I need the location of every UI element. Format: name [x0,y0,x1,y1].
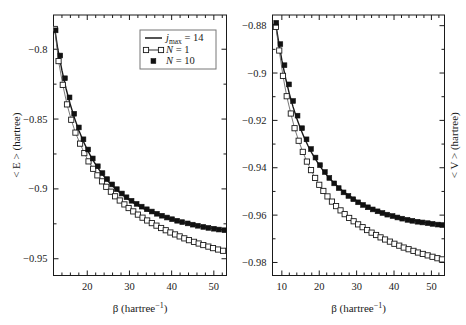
marker-open-square [308,168,313,173]
marker-open-square [284,94,289,99]
series-line-0 [275,22,442,225]
marker-open-square [296,138,301,143]
legend-n10-value: = 10 [173,55,195,66]
marker-filled-square [274,20,279,25]
y-tick-label: −0.98 [242,257,266,268]
marker-filled-square [129,198,134,203]
panel-right: 1020304050−0.88−0.9−0.92−0.94−0.96−0.98β… [242,15,461,315]
legend-open-square [143,47,148,52]
marker-open-square [288,111,293,116]
marker-filled-square [405,217,410,222]
marker-filled-square [217,227,222,232]
marker-open-square [300,149,305,154]
marker-filled-square [62,76,67,81]
marker-filled-square [435,222,440,227]
marker-filled-square [139,204,144,209]
marker-filled-square [67,95,72,100]
marker-open-square [73,130,78,135]
series-group [273,20,444,262]
marker-filled-square [341,190,346,195]
marker-open-square [439,257,444,262]
marker-filled-square [375,209,380,214]
marker-filled-square [72,111,77,116]
marker-filled-square [170,217,175,222]
marker-open-square [215,247,220,252]
marker-filled-square [124,195,129,200]
marker-open-square [280,73,285,78]
marker-filled-square [313,155,318,160]
marker-filled-square [425,221,430,226]
marker-filled-square [415,219,420,224]
legend-label-n10: N = 10 [165,55,195,66]
marker-filled-square [420,220,425,225]
marker-open-square [321,188,326,193]
marker-filled-square [160,213,165,218]
legend: jmax = 14N = 1N = 10 [140,30,216,69]
x-tick-label: 50 [426,281,437,292]
marker-open-square [210,246,215,251]
marker-filled-square [351,197,356,202]
marker-filled-square [295,113,300,118]
x-tick-label: 20 [314,281,325,292]
marker-filled-square [100,171,105,176]
y-tick-label: −0.95 [23,253,47,264]
x-tick-label: 30 [124,281,135,292]
marker-filled-square [385,212,390,217]
marker-filled-square [327,176,332,181]
marker-filled-square [95,164,100,169]
y-tick-label: −0.92 [242,115,266,126]
marker-open-square [56,58,61,63]
marker-filled-square [144,207,149,212]
marker-open-square [313,175,318,180]
marker-filled-square [300,126,305,131]
marker-filled-square [154,211,159,216]
marker-open-square [99,179,104,184]
marker-filled-square [390,214,395,219]
superscript: −1 [155,301,164,310]
marker-filled-square [318,163,323,168]
marker-filled-square [440,223,445,228]
marker-filled-square [282,63,287,68]
marker-filled-square [370,207,375,212]
legend-jmax-value: = 14 [182,32,204,43]
marker-filled-square [380,211,385,216]
legend-label-n1: N = 1 [165,44,189,55]
marker-filled-square [134,201,139,206]
marker-open-square [277,48,282,53]
marker-filled-square [180,220,185,225]
marker-open-square [201,242,206,247]
marker-filled-square [304,137,309,142]
x-axis-label: β (hartree−1) [113,301,168,315]
marker-filled-square [309,147,314,152]
marker-filled-square [222,228,227,233]
x-tick-label: 40 [166,281,177,292]
marker-open-square [186,238,191,243]
marker-filled-square [114,187,119,192]
x-tick-label: 10 [277,281,288,292]
x-tick-label: 20 [82,281,93,292]
marker-open-square [104,184,109,189]
marker-filled-square [400,216,405,221]
y-tick-label: −0.9 [247,68,266,79]
marker-filled-square [149,209,154,214]
two-panel-plot: 20304050−0.8−0.85−0.9−0.95β (hartree−1)<… [0,0,466,325]
x-axis-label: β (hartree−1) [331,301,386,315]
marker-filled-square [81,137,86,142]
legend-open-square [158,47,163,52]
marker-open-square [221,248,226,253]
marker-open-square [95,173,100,178]
marker-filled-square [195,223,200,228]
marker-filled-square [332,181,337,186]
marker-open-square [60,82,65,87]
y-tick-label: −0.85 [23,114,47,125]
y-tick-label: −0.8 [28,44,47,55]
marker-open-square [91,166,96,171]
marker-filled-square [58,53,63,58]
y-tick-label: −0.94 [242,162,267,173]
marker-filled-square [322,170,327,175]
marker-open-square [64,102,69,107]
marker-filled-square [291,99,296,104]
marker-filled-square [356,200,361,205]
marker-filled-square [365,205,370,210]
marker-filled-square [395,215,400,220]
